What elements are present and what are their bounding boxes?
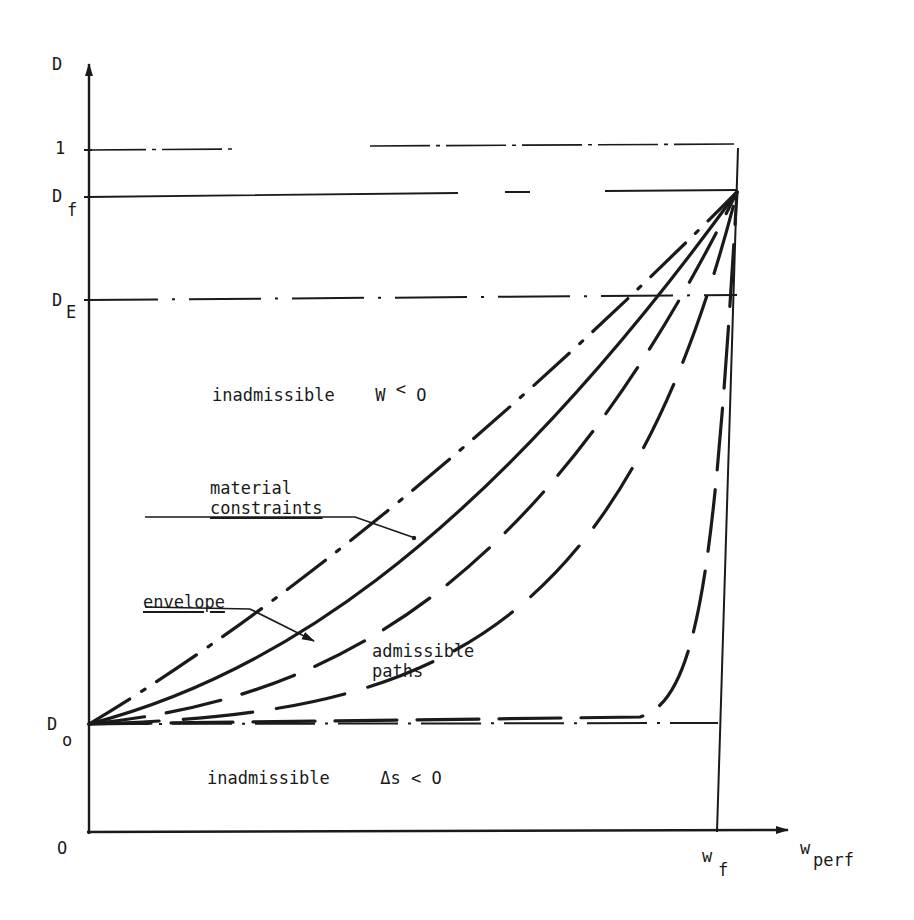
x-axis-label: w [800,840,810,857]
annotation-admissible: admissible [372,643,474,660]
level-line-1 [86,144,738,150]
origin-label: O [57,840,67,857]
region-upper-value: O [416,385,426,405]
annotation-constraints: constraints [210,500,323,517]
y-tick-Do: D [47,716,57,733]
y-tick-Df-subscript: f [67,202,77,219]
region-lower-text: inadmissible [207,768,330,788]
region-upper-label: inadmissible W < O [212,387,427,404]
x-tick-wf: w [702,848,712,865]
region-lower-value: O [432,768,442,788]
envelope-leader [145,607,314,641]
region-upper-relation: < [396,379,406,399]
y-tick-DE: D [52,292,62,309]
region-lower-relation: < [411,768,421,788]
region-upper-text: inadmissible [212,385,335,405]
material-constraints-leader-dot [412,536,416,540]
y-tick-DE-subscript: E [66,304,76,321]
y-tick-Do-subscript: o [62,732,72,749]
y-axis-label: D [52,56,62,73]
level-line-Df [86,190,737,197]
damage-work-diagram: D 1 D f D E D o O w f w perf inadmissibl… [0,0,914,920]
y-tick-1: 1 [55,140,65,157]
annotation-paths: paths [372,663,423,680]
annotation-envelope: envelope [143,594,225,611]
region-lower-label: inadmissible Δs < O [207,770,442,787]
diagram-canvas [0,0,914,920]
level-line-DE [86,295,737,300]
y-tick-Df: D [52,188,62,205]
x-axis [87,830,788,832]
x-tick-wf-subscript: f [718,862,728,879]
region-upper-condition: W [375,385,385,405]
x-axis-label-subscript: perf [813,852,854,869]
annotation-material: material [210,480,292,497]
region-lower-condition: Δs [380,768,400,788]
